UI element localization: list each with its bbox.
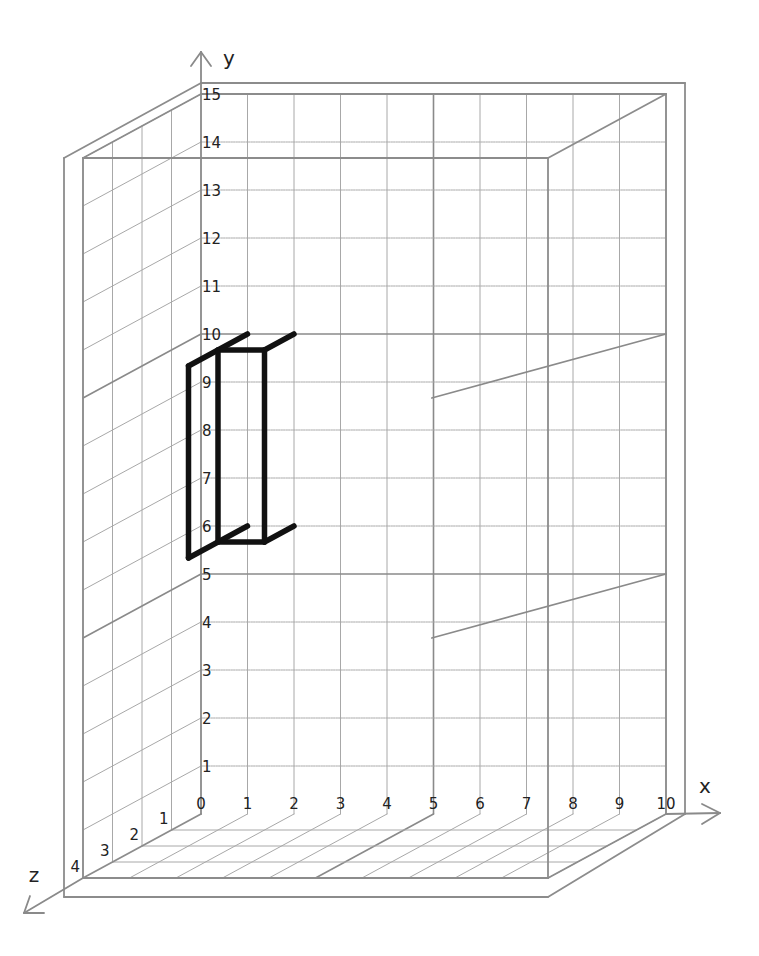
z-tick-label: 4 (70, 858, 80, 876)
y-tick-label: 4 (202, 614, 212, 632)
diagram-canvas: yxz0123456789101234567891011121314151234 (0, 0, 759, 956)
bracket-segment (265, 526, 295, 542)
y-tick-label: 15 (202, 86, 221, 104)
y-tick-label: 2 (202, 710, 212, 728)
top-right-depth-edge (548, 94, 666, 158)
x-axis-arrow-icon (702, 804, 720, 813)
z-tick-label: 1 (159, 810, 169, 828)
y-tick-label: 3 (202, 662, 212, 680)
x-tick-label: 1 (243, 795, 253, 813)
x-tick-label: 6 (475, 795, 485, 813)
x-axis-line (666, 813, 720, 814)
x-tick-label: 9 (615, 795, 625, 813)
y-tick-label: 11 (202, 278, 221, 296)
y-tick-label: 14 (202, 134, 221, 152)
y-tick-label: 10 (202, 326, 221, 344)
x-axis-label: x (699, 774, 711, 798)
y-tick-label: 1 (202, 758, 212, 776)
z-tick-label: 2 (129, 826, 139, 844)
x-tick-label: 10 (656, 795, 675, 813)
y-axis-label: y (223, 46, 235, 70)
grid-box-svg: yxz0123456789101234567891011121314151234 (0, 0, 759, 956)
x-tick-label: 8 (568, 795, 578, 813)
outer-bottom-depth-edge (548, 814, 685, 897)
z-axis-label: z (29, 863, 40, 887)
x-axis-arrow-icon (702, 813, 720, 824)
y-tick-label: 12 (202, 230, 221, 248)
tick-labels: yxz0123456789101234567891011121314151234 (29, 46, 711, 887)
y-tick-label: 5 (202, 566, 212, 584)
x-tick-label: 4 (382, 795, 392, 813)
y-axis-arrow-icon (191, 52, 201, 66)
y-axis-arrow-icon (201, 52, 211, 66)
z-tick-label: 3 (100, 842, 110, 860)
y-tick-label: 8 (202, 422, 212, 440)
x-tick-label: 7 (522, 795, 532, 813)
x-tick-label: 5 (429, 795, 439, 813)
box-frame (64, 83, 685, 897)
bracket-segment (265, 334, 295, 350)
y-tick-label: 13 (202, 182, 221, 200)
x-tick-label: 0 (196, 795, 206, 813)
outer-top-depth-edge (64, 83, 201, 158)
y-tick-label: 7 (202, 470, 212, 488)
x-tick-label: 2 (289, 795, 299, 813)
grid-lines (83, 94, 666, 878)
y-tick-label: 6 (202, 518, 212, 536)
y-tick-label: 9 (202, 374, 212, 392)
x-tick-label: 3 (336, 795, 346, 813)
